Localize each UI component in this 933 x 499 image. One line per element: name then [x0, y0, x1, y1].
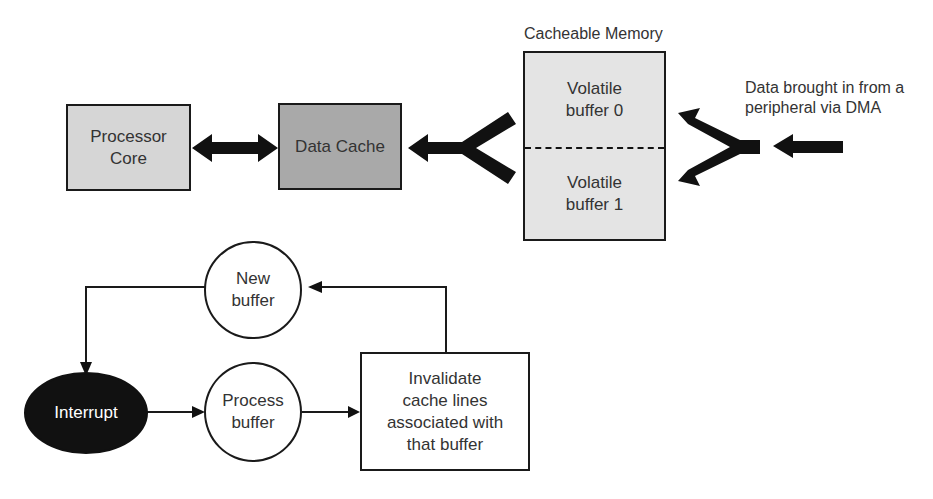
data-cache-box: Data Cache — [278, 103, 402, 190]
processor-core-box: Processor Core — [66, 104, 191, 191]
new-buffer-node: New buffer — [204, 241, 302, 339]
volatile-buffer-0: Volatile buffer 0 — [525, 53, 664, 147]
memory-to-cache-arrow — [408, 112, 516, 184]
cacheable-memory-title: Cacheable Memory — [524, 24, 663, 44]
interrupt-node: Interrupt — [24, 372, 148, 454]
dma-fork-arrow — [678, 108, 843, 186]
invalidate-cache-box: Invalidate cache lines associated with t… — [360, 352, 530, 471]
process-buffer-node: Process buffer — [204, 362, 302, 462]
bidirectional-arrow — [192, 134, 278, 162]
volatile-buffer-1: Volatile buffer 1 — [525, 149, 664, 239]
dma-label: Data brought in from a peripheral via DM… — [745, 78, 904, 118]
cacheable-memory-box: Volatile buffer 0 Volatile buffer 1 — [523, 51, 666, 241]
